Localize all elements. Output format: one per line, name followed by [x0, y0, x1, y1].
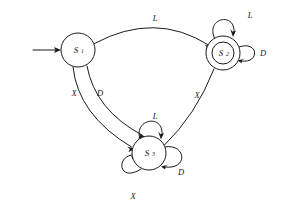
state-s1-subscript: 1: [81, 48, 84, 54]
self-loop-label-s2-L: L: [247, 10, 253, 20]
edge-label-s1-s2-L: L: [152, 13, 158, 23]
start-arrow: [33, 47, 61, 53]
state-node-s1[interactable]: S 1: [61, 33, 95, 67]
state-s3-label: S: [145, 148, 150, 158]
fsm-canvas: L X D X L D: [0, 0, 286, 208]
edge-label-s1-s3-D: D: [96, 88, 104, 98]
transition-s2-to-s3: [160, 69, 214, 149]
state-s1-label: S: [74, 45, 79, 55]
state-node-s3[interactable]: S 3: [132, 136, 166, 170]
self-loop-label-s3-X: X: [129, 191, 136, 201]
self-loop-label-s3-L: L: [152, 111, 158, 121]
state-s2-label: S: [219, 48, 224, 58]
transition-s1-to-s2: [95, 28, 213, 51]
edge-label-s1-s3-X: X: [70, 88, 77, 98]
state-s3-subscript: 3: [151, 151, 155, 157]
edge-label-s2-s3-X: X: [193, 90, 200, 100]
self-loop-s2-top: [213, 19, 236, 38]
state-s2-subscript: 2: [226, 51, 229, 57]
state-node-s2[interactable]: S 2: [206, 36, 240, 70]
self-loop-label-s2-D: D: [259, 48, 267, 58]
self-loop-label-s3-D: D: [177, 167, 185, 177]
transition-s1-to-s3-x: [73, 67, 135, 152]
transition-s1-to-s3-d: [87, 66, 146, 139]
state-machine-diagram: L X D X L D: [0, 0, 286, 208]
